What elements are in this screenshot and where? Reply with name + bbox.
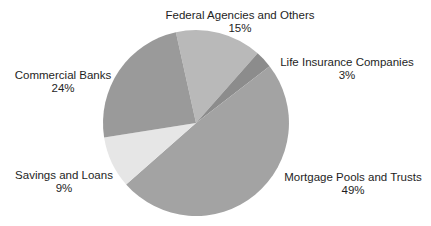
label-commercial-pct: 24% (15, 82, 112, 95)
label-life-name: Life Insurance Companies (280, 56, 414, 69)
label-mortgage-name: Mortgage Pools and Trusts (284, 171, 421, 184)
label-commercial-banks: Commercial Banks 24% (15, 69, 112, 94)
label-savings-pct: 9% (15, 182, 113, 195)
label-savings-loans: Savings and Loans 9% (15, 169, 113, 194)
label-life-pct: 3% (280, 69, 414, 82)
label-mortgage-pools: Mortgage Pools and Trusts 49% (284, 171, 421, 196)
label-federal-name: Federal Agencies and Others (166, 9, 315, 22)
label-life-insurance: Life Insurance Companies 3% (280, 56, 414, 81)
label-savings-name: Savings and Loans (15, 169, 113, 182)
label-commercial-name: Commercial Banks (15, 69, 112, 82)
pie-slices (103, 30, 289, 216)
label-federal-agencies: Federal Agencies and Others 15% (166, 9, 315, 34)
label-federal-pct: 15% (166, 22, 315, 35)
label-mortgage-pct: 49% (284, 184, 421, 197)
